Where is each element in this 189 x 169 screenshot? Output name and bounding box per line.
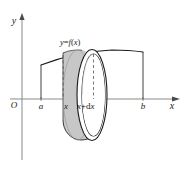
tick-label-b: b — [141, 101, 146, 111]
tick-label-a: a — [39, 101, 44, 111]
y-axis-arrowhead — [19, 13, 24, 20]
tick-label-x-plus-dx: x+dx — [76, 101, 95, 111]
curve-label-close-paren: ) — [78, 37, 81, 47]
cylindrical-shell — [63, 50, 107, 141]
y-axis-label: y — [11, 15, 17, 26]
curve-label: y=f(x) — [59, 37, 81, 47]
origin-label: O — [11, 100, 18, 110]
tick-label-x-plus-dx-dxx: x — [90, 101, 95, 111]
cylindrical-shell-figure: y x O a x x+dx b y=f(x) — [0, 0, 189, 169]
tick-label-x: x — [63, 101, 68, 111]
figure-canvas: y x O a x x+dx b y=f(x) — [0, 0, 189, 169]
x-axis-label: x — [169, 100, 175, 111]
